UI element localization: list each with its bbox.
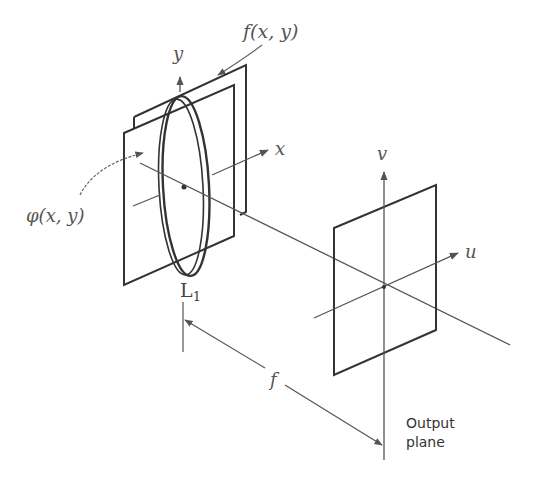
output-plane-label-line2: plane	[406, 433, 455, 452]
label-v: v	[377, 143, 387, 164]
label-lens: L1	[180, 279, 201, 304]
lens-l1	[154, 95, 213, 277]
output-plane-label: Output plane	[406, 414, 455, 452]
label-x: x	[275, 138, 285, 159]
focal-length-dimension	[183, 302, 382, 445]
label-focal-length: f	[268, 369, 280, 390]
output-plane	[334, 185, 436, 375]
output-origin	[382, 285, 386, 289]
label-f-xy: f(x, y)	[241, 20, 298, 42]
label-u: u	[465, 241, 477, 262]
label-phi-xy: φ(x, y)	[26, 205, 84, 226]
output-plane-label-line1: Output	[406, 414, 455, 433]
label-y: y	[172, 43, 184, 64]
